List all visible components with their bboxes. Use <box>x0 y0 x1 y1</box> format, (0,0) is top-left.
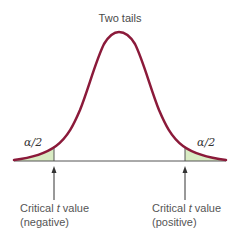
left-arrow-head-icon <box>52 166 57 173</box>
right-critical-label: Critical t value (positive) <box>152 201 221 229</box>
right-critical-sign: (positive) <box>152 215 221 229</box>
left-critical-label: Critical t value (negative) <box>20 201 89 229</box>
right-critical-prefix: Critical <box>152 202 189 214</box>
right-arrow-head-icon <box>183 166 188 173</box>
right-tail-label: α/2 <box>197 136 215 149</box>
left-critical-prefix: Critical <box>20 202 57 214</box>
right-critical-suffix: value <box>192 202 221 214</box>
left-critical-suffix: value <box>60 202 89 214</box>
density-curve <box>14 32 226 160</box>
left-tail-label: α/2 <box>24 136 42 149</box>
left-critical-sign: (negative) <box>20 215 89 229</box>
